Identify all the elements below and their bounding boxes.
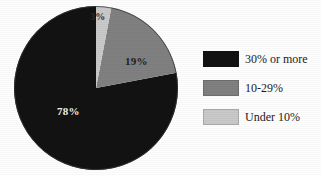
legend-swatch-icon-30-or-more	[203, 51, 239, 67]
pie-chart-svg	[14, 6, 178, 170]
legend-label-10-29: 10-29%	[245, 80, 283, 96]
legend-item-under-10[interactable]: Under 10%	[203, 109, 321, 125]
legend-item-10-29[interactable]: 10-29%	[203, 80, 321, 96]
pie-chart: 3% 19% 78%	[14, 6, 178, 170]
legend: 30% or more 10-29% Under 10%	[203, 51, 321, 125]
legend-swatch-icon-under-10	[203, 109, 239, 125]
pie-label-under-10: 3%	[90, 12, 105, 22]
legend-swatch-icon-10-29	[203, 80, 239, 96]
legend-label-under-10: Under 10%	[245, 109, 300, 125]
legend-item-30-or-more[interactable]: 30% or more	[203, 51, 321, 67]
pie-label-30-or-more: 78%	[57, 106, 80, 117]
legend-label-30-or-more: 30% or more	[245, 51, 308, 67]
pie-label-10-29: 19%	[125, 56, 148, 67]
pie-chart-figure: 3% 19% 78% 30% or more 10-29% Under 10%	[0, 0, 321, 175]
